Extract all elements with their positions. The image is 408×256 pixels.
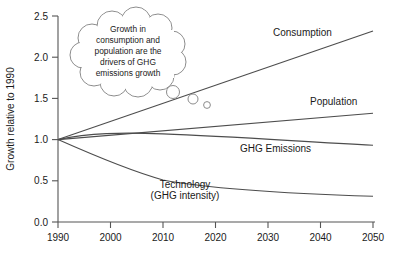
thought-bubble-trail-2 [188,94,198,104]
x-tick-label-2020: 2020 [204,232,227,243]
y-tick-label-0.0: 0.0 [34,217,48,228]
y-tick-label-1.5: 1.5 [34,93,48,104]
series-label-technology: Technology [160,179,211,190]
x-tick-label-2050: 2050 [362,232,385,243]
y-tick-label-1.0: 1.0 [34,134,48,145]
chart-svg: 2.5 2.0 1.5 1.0 0.5 0.0 1990 2000 2010 2… [0,0,408,256]
x-tick-label-2030: 2030 [257,232,280,243]
y-axis-title: Growth relative to 1990 [5,67,16,171]
y-tick-label-2.5: 2.5 [34,11,48,22]
x-tick-label-2000: 2000 [99,232,122,243]
series-label-population: Population [310,96,357,107]
y-tick-label-2.0: 2.0 [34,52,48,63]
series-label-ghg-emissions: GHG Emissions [240,143,311,154]
thought-bubble-trail-1 [167,86,180,99]
callout-line-1: Growth in [110,24,146,34]
x-tick-label-1990: 1990 [47,232,70,243]
series-label-consumption: Consumption [273,27,332,38]
chart-background [0,0,408,256]
callout-line-5: emissions growth [96,68,161,78]
y-tick-label-0.5: 0.5 [34,175,48,186]
x-tick-label-2040: 2040 [309,232,332,243]
thought-bubble-trail-3 [204,102,211,109]
callout-line-3: population are the [94,46,161,56]
callout-line-2: consumption and [96,35,160,45]
chart-container: 2.5 2.0 1.5 1.0 0.5 0.0 1990 2000 2010 2… [0,0,408,256]
series-label-technology-sub: (GHG intensity) [151,190,220,201]
x-tick-label-2010: 2010 [152,232,175,243]
callout-line-4: drivers of GHG [100,57,156,67]
